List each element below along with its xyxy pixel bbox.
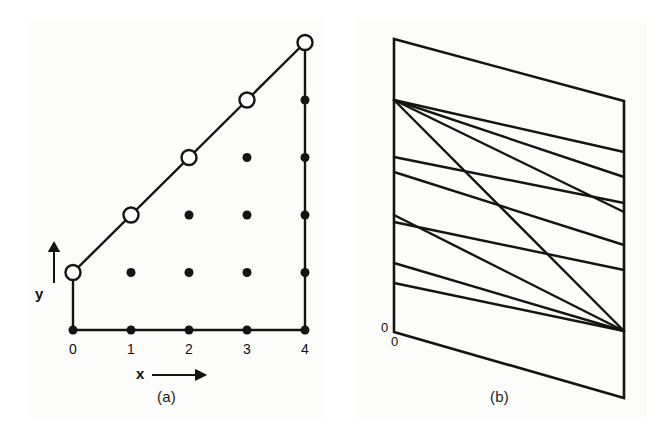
y-axis-arrow-icon [0,0,333,438]
panel-b-boundary-quad [394,39,624,398]
mid-sweep-line [394,172,624,245]
panel-a-caption: (a) [0,388,333,405]
right-fan-line [394,283,624,331]
panel-b: 0 0 (b) [333,0,666,438]
left-fan-line [394,100,624,177]
panel-a: 0 1 2 3 4 x y (a) [0,0,333,438]
panel-b-origin-label-bottom: 0 [391,334,398,349]
figure-root: 0 1 2 3 4 x y (a) 0 0 (b) [0,0,666,438]
right-fan-line [394,222,624,270]
panel-b-caption: (b) [333,388,666,405]
panel-b-origin-label-left: 0 [381,320,388,335]
mid-sweep-line [394,157,624,203]
left-fan-line [394,100,624,152]
panel-b-drawing [333,0,666,438]
